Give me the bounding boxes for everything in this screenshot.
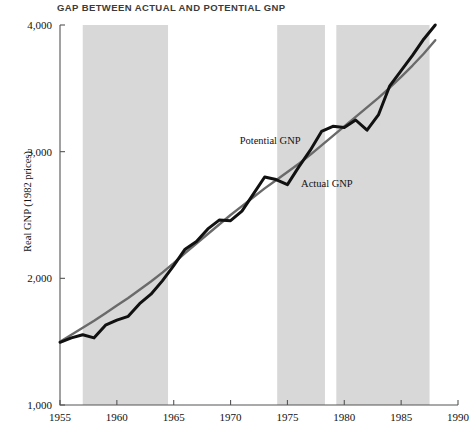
recession-bands — [83, 25, 430, 405]
x-tick-label: 1955 — [49, 411, 72, 423]
x-tick-label: 1965 — [163, 411, 186, 423]
x-tick-label: 1960 — [106, 411, 129, 423]
x-tick-label: 1980 — [333, 411, 356, 423]
y-tick-label: 3,000 — [27, 146, 52, 158]
x-tick-label: 1970 — [220, 411, 243, 423]
gnp-gap-chart: GAP BETWEEN ACTUAL AND POTENTIAL GNP Rea… — [0, 0, 475, 430]
plot-area: 1,0002,0003,0004,00019551960196519701975… — [0, 0, 475, 430]
x-tick-label: 1990 — [447, 411, 470, 423]
recession-band — [336, 25, 429, 405]
y-tick-label: 2,000 — [27, 272, 52, 284]
x-tick-label: 1985 — [390, 411, 413, 423]
y-tick-label: 1,000 — [27, 399, 52, 411]
series-label-actual-gnp: Actual GNP — [301, 178, 353, 189]
recession-band — [277, 25, 325, 405]
series-label-potential-gnp: Potential GNP — [240, 135, 301, 146]
x-tick-label: 1975 — [276, 411, 299, 423]
recession-band — [83, 25, 168, 405]
y-tick-label: 4,000 — [27, 19, 52, 31]
